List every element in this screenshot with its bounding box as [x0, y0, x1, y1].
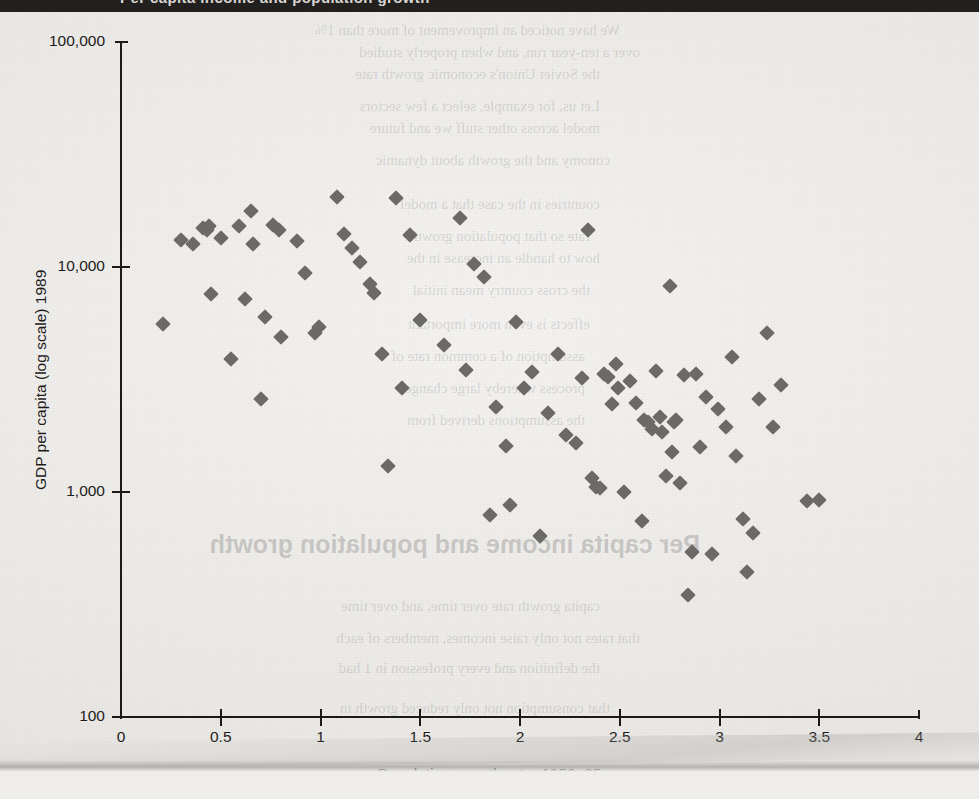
data-point — [608, 356, 624, 372]
data-point — [203, 286, 219, 302]
data-point — [488, 399, 504, 415]
data-point — [774, 377, 790, 393]
data-point — [381, 459, 397, 475]
data-point — [243, 203, 259, 219]
data-point — [257, 309, 273, 325]
data-point — [273, 329, 289, 345]
x-tick — [320, 709, 322, 726]
data-point — [345, 241, 361, 257]
data-point — [658, 468, 674, 484]
data-point — [482, 507, 498, 523]
data-point — [692, 440, 708, 456]
x-tick — [220, 709, 222, 726]
data-point — [329, 189, 345, 205]
x-tick — [419, 709, 421, 726]
data-point — [648, 363, 664, 379]
x-tick — [519, 709, 521, 726]
data-point — [688, 366, 704, 382]
data-point — [353, 254, 369, 270]
x-tick — [818, 709, 820, 726]
data-point — [718, 419, 734, 435]
scanned-page: We have noticed an improvement of more t… — [0, 0, 979, 799]
y-tick — [115, 41, 128, 43]
data-point — [684, 544, 700, 560]
y-axis-line — [120, 42, 122, 719]
data-point — [752, 391, 768, 407]
data-point — [498, 438, 514, 454]
page-bottom-edge-shadow — [0, 760, 979, 799]
x-tick — [120, 710, 122, 719]
data-point — [746, 525, 762, 541]
data-point — [231, 218, 247, 234]
data-point — [736, 511, 752, 527]
data-point — [237, 291, 253, 307]
data-point — [740, 564, 756, 580]
data-point — [616, 484, 632, 500]
data-point — [704, 546, 720, 562]
data-point — [337, 226, 353, 242]
y-tick — [112, 266, 130, 268]
data-point — [634, 514, 650, 530]
data-point — [466, 256, 482, 272]
data-point — [223, 351, 239, 367]
data-point — [155, 316, 171, 332]
data-point — [580, 222, 596, 238]
x-tick — [918, 710, 920, 719]
data-point — [574, 371, 590, 387]
data-point — [502, 497, 518, 513]
data-point — [516, 380, 532, 396]
y-tick-label: 10,000 — [0, 257, 105, 275]
data-point — [476, 270, 492, 286]
data-point — [213, 231, 229, 247]
scan-top-dark-band: Per capita income and population growth — [0, 0, 979, 12]
data-point — [672, 475, 688, 491]
data-point — [698, 389, 714, 405]
data-point — [766, 419, 782, 435]
data-point — [604, 397, 620, 413]
data-point — [413, 312, 429, 328]
x-tick — [719, 709, 721, 726]
data-point — [395, 380, 411, 396]
data-point — [458, 362, 474, 378]
data-point — [812, 492, 828, 508]
data-point — [628, 395, 644, 411]
x-tick — [619, 709, 621, 726]
data-point — [403, 227, 419, 243]
y-tick-label: 1,000 — [0, 482, 105, 500]
data-point — [550, 346, 566, 362]
data-point — [436, 337, 452, 353]
data-point — [289, 234, 305, 250]
y-tick-label: 100,000 — [0, 32, 105, 50]
data-point — [724, 349, 740, 365]
y-tick-label: 100 — [0, 707, 105, 725]
clipped-heading-text: Per capita income and population growth — [120, 0, 430, 6]
data-point — [253, 391, 269, 407]
data-point — [710, 401, 726, 417]
data-point — [297, 265, 313, 281]
data-point — [375, 346, 391, 362]
data-point — [389, 191, 405, 207]
data-point — [508, 314, 524, 330]
data-point — [245, 237, 261, 253]
y-tick — [112, 491, 130, 493]
data-point — [532, 528, 548, 544]
data-point — [728, 448, 744, 464]
data-point — [680, 587, 696, 603]
data-point — [760, 325, 776, 341]
data-point — [524, 365, 540, 381]
scatter-chart: 100,00010,0001,00010000.511.522.533.54 G… — [0, 0, 979, 799]
data-point — [540, 405, 556, 421]
data-point — [664, 445, 680, 461]
y-axis-title: GDP per capita (log scale) 1989 — [32, 269, 50, 489]
data-point — [452, 210, 468, 226]
data-point — [662, 279, 678, 295]
